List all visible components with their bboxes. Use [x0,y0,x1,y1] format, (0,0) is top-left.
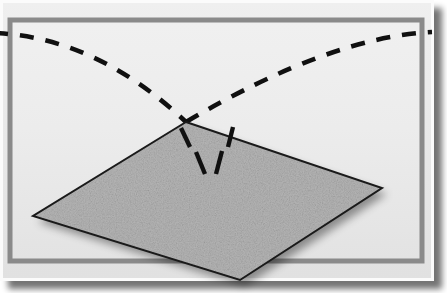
figure-root: Particle trajectory reflecting off a tex… [0,0,447,293]
scattering-diagram-svg: Particle trajectory reflecting off a tex… [0,0,447,293]
